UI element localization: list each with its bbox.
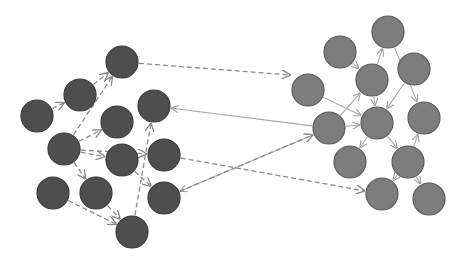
solid-edge-R3-R7 bbox=[374, 97, 375, 105]
right-node-R4 bbox=[398, 53, 430, 85]
solid-edge-R6-R3 bbox=[340, 93, 360, 115]
right-node-R2 bbox=[324, 36, 356, 68]
right-node-R12 bbox=[413, 183, 445, 215]
dashed-edge-F-E bbox=[79, 130, 101, 141]
left-node-A bbox=[106, 46, 138, 78]
dashed-edge-F-J bbox=[74, 163, 85, 179]
right-node-R7 bbox=[361, 107, 393, 139]
dashed-edge-F-G bbox=[81, 152, 105, 156]
right-node-R9 bbox=[334, 146, 366, 178]
left-node-C bbox=[21, 100, 53, 132]
left-node-G bbox=[106, 144, 138, 176]
dashed-edge-J-L bbox=[108, 205, 120, 218]
left-node-E bbox=[101, 106, 133, 138]
solid-edge-R7-R9 bbox=[360, 137, 367, 147]
left-node-H bbox=[148, 139, 180, 171]
dashed-edge-A-R5x bbox=[139, 63, 290, 75]
left-node-L bbox=[116, 216, 148, 248]
solid-edge-R7-R10 bbox=[388, 136, 397, 148]
left-node-D bbox=[138, 90, 170, 122]
left-node-F bbox=[48, 133, 80, 165]
solid-edge-R6-D bbox=[172, 108, 312, 126]
right-node-R5 bbox=[292, 74, 324, 106]
solid-edge-R4-R7 bbox=[387, 83, 404, 108]
left-node-K bbox=[148, 182, 180, 214]
solid-edge-R3-R1 bbox=[377, 49, 382, 64]
dashed-edge-C-B bbox=[52, 103, 64, 109]
left-node-I bbox=[37, 177, 69, 209]
solid-edge-R10-R12 bbox=[416, 177, 420, 184]
left-node-J bbox=[80, 177, 112, 209]
diagram-canvas bbox=[0, 0, 465, 265]
right-node-R10 bbox=[392, 146, 424, 178]
dashed-edge-B-A bbox=[93, 73, 107, 84]
right-node-R11 bbox=[366, 178, 398, 210]
solid-edge-R10-R11 bbox=[393, 175, 397, 180]
dashed-edge-K-R6 bbox=[180, 135, 313, 191]
right-node-R1 bbox=[372, 16, 404, 48]
right-node-R8 bbox=[408, 102, 440, 134]
network-diagram bbox=[0, 0, 465, 265]
right-node-R3 bbox=[356, 64, 388, 96]
solid-edge-R6-R7 bbox=[346, 125, 359, 126]
solid-edge-R10-R8 bbox=[414, 135, 418, 146]
right-node-R6 bbox=[313, 112, 345, 144]
solid-edge-R2-R3 bbox=[353, 63, 359, 68]
left-node-B bbox=[64, 79, 96, 111]
